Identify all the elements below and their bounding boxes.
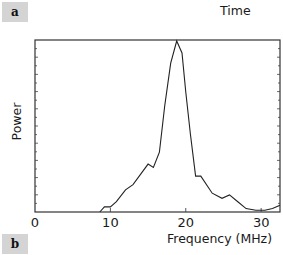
x-tick-label: 10 (102, 215, 119, 230)
plot-frame (35, 40, 280, 212)
x-tick-label: 30 (253, 215, 270, 230)
x-tick-label: 0 (31, 215, 39, 230)
power-spectrum-chart: 0102030 (0, 0, 283, 255)
x-tick-label: 20 (177, 215, 194, 230)
x-axis-ticks: 0102030 (31, 208, 270, 230)
power-curve (100, 41, 280, 212)
x-axis-label: Frequency (MHz) (167, 231, 272, 246)
y-axis-ticks (35, 49, 280, 204)
panel-label-b: b (2, 234, 28, 254)
